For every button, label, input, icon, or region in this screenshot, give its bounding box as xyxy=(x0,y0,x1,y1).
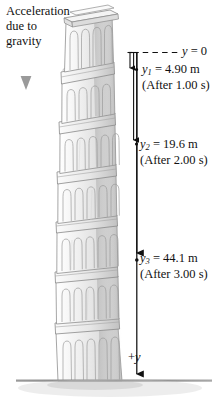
measurement-y3-equation: y3 = 44.1 m xyxy=(140,251,208,267)
positive-y-sign: + xyxy=(128,350,135,364)
measurement-y1-equation: y1 = 4.90 m xyxy=(142,62,210,78)
y1-value: = 4.90 m xyxy=(152,62,200,76)
gravity-arrow-icon xyxy=(21,47,32,90)
y-zero-label: y = 0 xyxy=(182,44,207,58)
measurement-y2-time: (After 2.00 s) xyxy=(140,153,208,167)
measurement-y2-equation: y2 = 19.6 m xyxy=(140,137,208,153)
gravity-caption-line3: gravity xyxy=(6,34,70,49)
gravity-caption-line2: due to xyxy=(6,19,70,34)
y2-value: = 19.6 m xyxy=(150,137,198,151)
gravity-caption: Acceleration due to gravity xyxy=(6,4,70,48)
positive-y-variable: y xyxy=(135,350,141,364)
positive-y-label: +y xyxy=(128,350,141,364)
measurement-overlay xyxy=(0,0,224,405)
y3-value: = 44.1 m xyxy=(150,251,198,265)
measurement-y3-time: (After 3.00 s) xyxy=(140,267,208,281)
y-zero-value: = 0 xyxy=(188,44,208,58)
gravity-caption-line1: Acceleration xyxy=(6,4,70,19)
measurement-label-y3: y3 = 44.1 m (After 3.00 s) xyxy=(140,251,208,281)
measurement-y1-time: (After 1.00 s) xyxy=(142,78,210,92)
measurement-label-y1: y1 = 4.90 m (After 1.00 s) xyxy=(142,62,210,92)
measurement-label-y2: y2 = 19.6 m (After 2.00 s) xyxy=(140,137,208,167)
figure-canvas: Acceleration due to gravity y = 0 y1 = 4… xyxy=(0,0,224,405)
